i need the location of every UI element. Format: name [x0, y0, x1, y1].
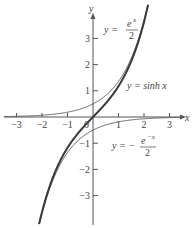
- annotation-num-base: e: [141, 135, 146, 146]
- x-tick-label: 1: [116, 119, 121, 130]
- annotation-var: x: [161, 80, 167, 91]
- x-tick-label: 3: [167, 119, 172, 130]
- svg-text:y = sinh x: y = sinh x: [126, 80, 167, 91]
- y-tick-label: 2: [85, 59, 90, 70]
- x-tick-label: −1: [62, 119, 73, 130]
- x-tick-label: −2: [37, 119, 48, 130]
- x-axis-label: x: [184, 112, 190, 123]
- annotation-den: 2: [145, 147, 150, 158]
- chart-plot: x y −3−2−1123 −3−2−1123 y = e x 2 y = si…: [0, 0, 192, 228]
- y-tick-label: 1: [85, 85, 90, 96]
- annotation-lhs: y = sinh: [126, 80, 162, 91]
- y-axis-label: y: [88, 3, 94, 14]
- y-tick-label: 3: [85, 33, 90, 44]
- annotation-lhs: y =: [103, 24, 118, 35]
- annotation-neg-half-exp-neg: y = − e −x 2: [111, 133, 156, 158]
- annotation-sinh: y = sinh x: [126, 80, 167, 91]
- annotation-den: 2: [129, 30, 134, 41]
- origin-label: 0: [84, 119, 89, 130]
- svg-text:y =: y =: [103, 24, 118, 35]
- x-tick-label: −3: [11, 119, 22, 130]
- annotation-num-base: e: [127, 18, 132, 29]
- annotation-num-exp: x: [132, 16, 137, 24]
- annotation-lhs: y = −: [111, 140, 135, 151]
- curve-neg-half-exp-neg: [40, 117, 182, 222]
- y-tick-label: −3: [79, 190, 90, 201]
- y-tick-label: −2: [79, 164, 90, 175]
- y-tick-label: −1: [79, 138, 90, 149]
- annotation-half-exp: y = e x 2: [103, 16, 138, 41]
- x-tick-label: 2: [142, 119, 147, 130]
- annotation-num-exp: −x: [147, 133, 156, 141]
